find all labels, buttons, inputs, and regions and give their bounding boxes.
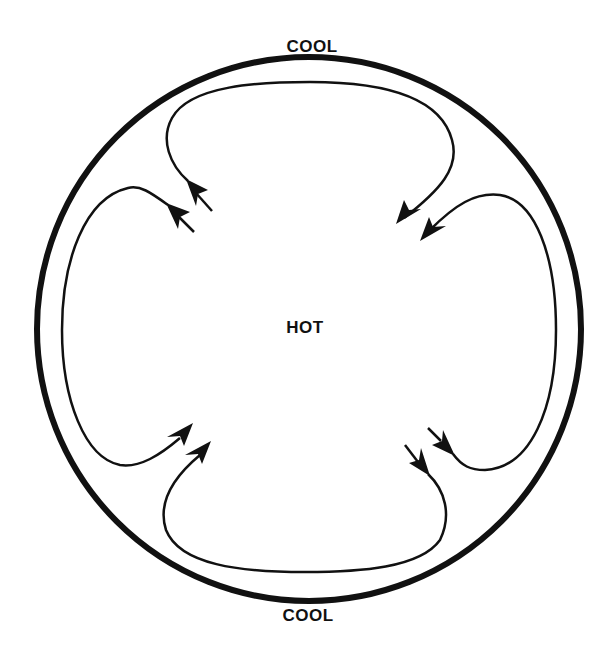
- bottom-loop: [164, 441, 446, 572]
- right-loop-start-tail: [428, 428, 441, 441]
- bottom-loop-start-arrow-icon: [409, 448, 430, 476]
- bottom-loop-end-arrow-icon: [185, 441, 211, 464]
- top-loop-curve: [167, 82, 454, 218]
- right-loop-curve: [430, 195, 556, 470]
- right-loop: [420, 195, 556, 470]
- cool-bottom-label: COOL: [282, 606, 333, 626]
- cool-top-label: COOL: [286, 37, 337, 57]
- bottom-loop-start-tail: [405, 445, 418, 462]
- left-loop-curve: [62, 187, 180, 465]
- left-loop-end-arrow-icon: [167, 423, 193, 446]
- bottom-loop-curve: [164, 455, 446, 572]
- left-loop-start-tail: [178, 216, 194, 232]
- top-loop-start-tail: [196, 193, 212, 211]
- hot-center-label: HOT: [286, 318, 323, 338]
- right-loop-end-arrow-icon: [420, 217, 446, 241]
- top-loop: [167, 82, 454, 224]
- left-loop: [62, 187, 194, 465]
- top-loop-end-arrow-icon: [396, 200, 421, 224]
